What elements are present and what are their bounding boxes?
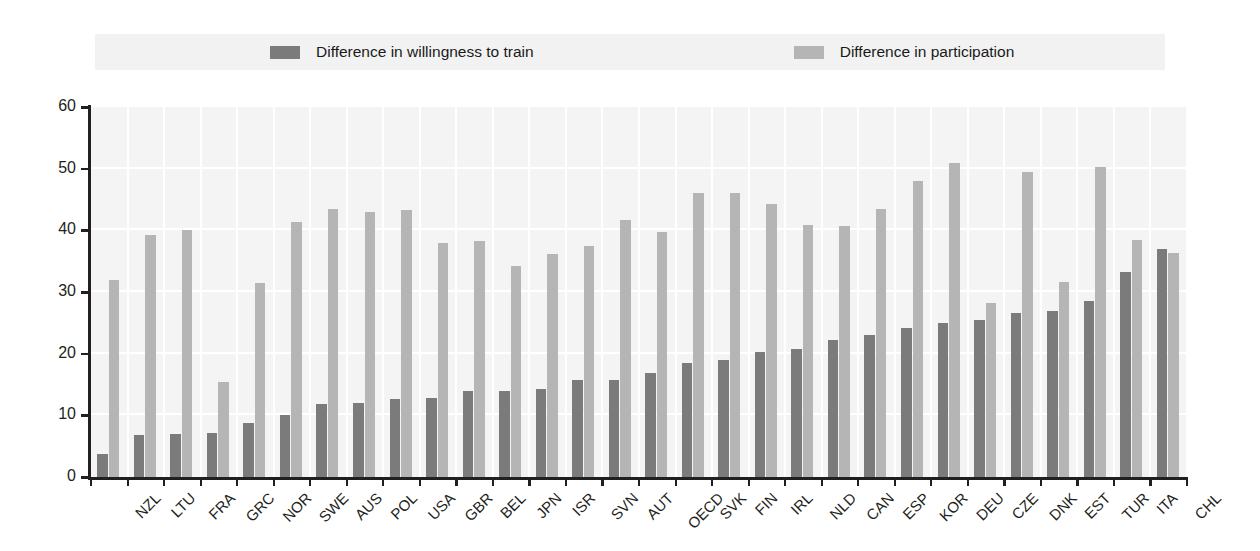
x-axis-tick xyxy=(967,477,969,486)
y-axis-tick-label: 20 xyxy=(36,345,76,361)
x-axis-label-deu: DEU xyxy=(973,490,1006,523)
x-axis-tick xyxy=(1003,477,1005,486)
gridline-vertical xyxy=(1113,107,1115,477)
bar-participation-swe xyxy=(291,222,302,477)
y-axis-tick xyxy=(81,414,89,417)
x-axis-label-kor: KOR xyxy=(937,490,971,524)
gridline-vertical xyxy=(748,107,750,477)
gridline-vertical xyxy=(930,107,932,477)
bar-willingness-nor xyxy=(243,423,254,477)
bar-willingness-oecd xyxy=(645,373,656,477)
bar-participation-gbr xyxy=(438,243,449,477)
x-axis-tick xyxy=(1149,477,1151,486)
x-axis-label-isr: ISR xyxy=(569,490,597,518)
x-axis-label-jpn: JPN xyxy=(534,490,565,521)
x-axis-label-ita: ITA xyxy=(1153,490,1179,516)
x-axis-tick xyxy=(236,477,238,486)
bar-willingness-irl xyxy=(755,352,766,477)
y-axis-tick xyxy=(81,229,89,232)
x-axis-tick xyxy=(711,477,713,486)
bar-willingness-kor xyxy=(901,328,912,477)
x-axis-label-usa: USA xyxy=(425,490,457,522)
gridline-vertical xyxy=(1149,107,1151,477)
y-axis-tick-label: 10 xyxy=(36,406,76,422)
bar-willingness-jpn xyxy=(499,391,510,477)
x-axis-label-swe: SWE xyxy=(316,490,351,525)
bar-willingness-pol xyxy=(353,403,364,477)
x-axis-label-svn: SVN xyxy=(608,490,640,522)
y-axis-tick-label: 40 xyxy=(36,221,76,237)
bar-participation-ita xyxy=(1132,240,1143,477)
x-axis-label-fin: FIN xyxy=(752,490,780,518)
bar-willingness-est xyxy=(1047,311,1058,477)
y-axis-tick xyxy=(81,291,89,294)
x-axis-tick xyxy=(930,477,932,486)
gridline-vertical xyxy=(1040,107,1042,477)
x-axis-label-fra: FRA xyxy=(205,490,237,522)
bar-participation-cze xyxy=(986,303,997,477)
gridline-vertical xyxy=(127,107,129,477)
gridline-vertical xyxy=(419,107,421,477)
bar-willingness-ltu xyxy=(134,435,145,477)
x-axis-tick xyxy=(857,477,859,486)
y-axis-tick-label: 0 xyxy=(36,468,76,484)
x-axis-tick xyxy=(1186,477,1188,486)
x-axis-label-grc: GRC xyxy=(243,490,277,524)
bar-willingness-fra xyxy=(170,434,181,477)
bar-participation-est xyxy=(1059,282,1070,477)
x-axis-label-esp: ESP xyxy=(900,490,932,522)
bar-participation-usa xyxy=(401,210,412,477)
x-axis-tick xyxy=(492,477,494,486)
gridline-vertical xyxy=(784,107,786,477)
x-axis-tick xyxy=(1076,477,1078,486)
y-axis-tick-label: 60 xyxy=(36,98,76,114)
bar-willingness-bel xyxy=(463,391,474,477)
bar-participation-aus xyxy=(328,209,339,477)
x-axis-tick xyxy=(273,477,275,486)
y-axis-tick-label: 30 xyxy=(36,283,76,299)
gridline-vertical xyxy=(601,107,603,477)
x-axis-label-svk: SVK xyxy=(717,490,749,522)
gridline-vertical xyxy=(200,107,202,477)
bar-participation-can xyxy=(839,226,850,477)
x-axis-label-dnk: DNK xyxy=(1046,490,1079,523)
gridline-vertical xyxy=(273,107,275,477)
gridline-vertical xyxy=(309,107,311,477)
bar-willingness-grc xyxy=(207,433,218,477)
gridline-vertical xyxy=(857,107,859,477)
gridline-vertical xyxy=(675,107,677,477)
x-axis-tick xyxy=(1113,477,1115,486)
bar-participation-dnk xyxy=(1022,172,1033,477)
x-axis-tick xyxy=(894,477,896,486)
x-axis-label-tur: TUR xyxy=(1119,490,1151,522)
gridline-vertical xyxy=(1003,107,1005,477)
gridline-vertical xyxy=(894,107,896,477)
gridline-vertical xyxy=(346,107,348,477)
x-axis-label-est: EST xyxy=(1082,490,1113,521)
x-axis-tick xyxy=(309,477,311,486)
bar-willingness-can xyxy=(828,340,839,477)
gridline-vertical xyxy=(382,107,384,477)
x-axis-tick xyxy=(784,477,786,486)
gridline-vertical xyxy=(163,107,165,477)
x-axis-tick xyxy=(455,477,457,486)
x-axis-tick xyxy=(127,477,129,486)
bar-participation-jpn xyxy=(511,266,522,477)
bar-participation-fra xyxy=(182,230,193,477)
bar-willingness-tur xyxy=(1084,301,1095,477)
bar-participation-isr xyxy=(547,254,558,477)
bar-participation-kor xyxy=(913,181,924,477)
x-axis-label-nzl: NZL xyxy=(132,490,163,521)
gridline-vertical xyxy=(711,107,713,477)
bar-participation-nld xyxy=(803,225,814,477)
x-axis-tick xyxy=(565,477,567,486)
bar-participation-aut xyxy=(620,220,631,477)
x-axis-label-chl: CHL xyxy=(1192,490,1224,522)
x-axis-tick xyxy=(163,477,165,486)
bar-participation-deu xyxy=(949,163,960,478)
x-axis-tick xyxy=(1040,477,1042,486)
bar-participation-svk xyxy=(693,193,704,477)
x-axis-label-aut: AUT xyxy=(644,490,676,522)
x-axis-label-bel: BEL xyxy=(497,490,528,521)
bar-willingness-aus xyxy=(316,404,327,477)
